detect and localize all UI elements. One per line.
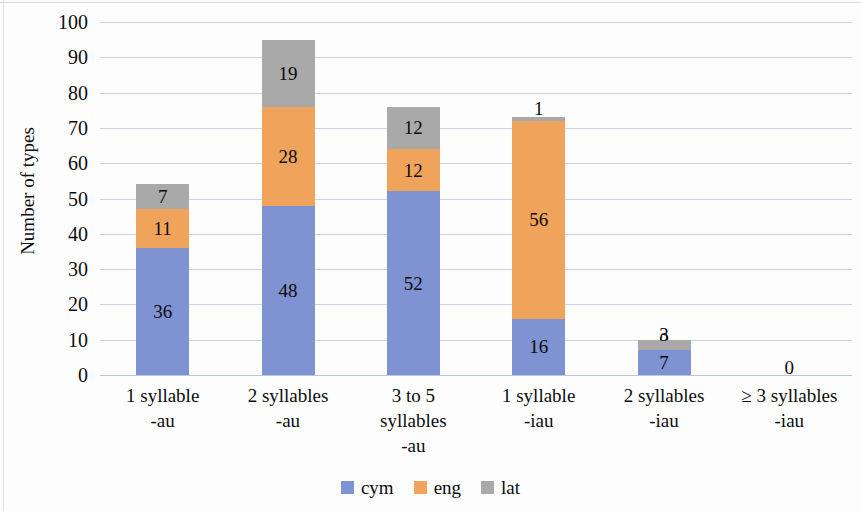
bar-value-label: 52: [404, 274, 423, 293]
bar-segment-cym[interactable]: 16: [512, 319, 565, 375]
gridline-90: [100, 57, 852, 58]
y-tick-label-80: 80: [14, 83, 88, 103]
bar-value-label: 36: [153, 302, 172, 321]
scan-border-top: [0, 2, 861, 3]
bar-segment-eng[interactable]: 12: [387, 149, 440, 191]
legend-label: cym: [361, 478, 394, 497]
bar-value-label: 16: [529, 337, 548, 356]
gridline-40: [100, 234, 852, 235]
bar-value-label: 19: [279, 64, 298, 83]
y-tick-label-60: 60: [14, 153, 88, 173]
bar-value-label: 11: [154, 219, 172, 238]
x-axis-label-line: -iau: [601, 408, 727, 433]
bar-segment-eng[interactable]: 11: [136, 209, 189, 248]
x-axis-label-line: syllables: [350, 408, 476, 433]
x-axis-label: 1 syllable-iau: [476, 383, 602, 433]
stacked-bar-chart: Number of types 1009080706050403020100 3…: [0, 0, 861, 511]
bar-group[interactable]: 482819: [262, 40, 315, 375]
bar-segment-lat[interactable]: 1: [512, 117, 565, 121]
y-tick-label-30: 30: [14, 259, 88, 279]
bar-value-label: 56: [529, 210, 548, 229]
legend-label: lat: [501, 478, 520, 497]
y-tick-label-0: 0: [14, 365, 88, 385]
x-axis-label-line: 2 syllables: [601, 383, 727, 408]
gridline-0: [100, 375, 852, 376]
bar-segment-cym[interactable]: 7: [638, 350, 691, 375]
gridline-100: [100, 22, 852, 23]
bar-value-label: 7: [158, 187, 168, 206]
bar-segment-lat[interactable]: 12: [387, 107, 440, 149]
x-axis-label: 2 syllables-au: [225, 383, 351, 433]
bar-group[interactable]: 0: [763, 374, 816, 375]
bar-segment-cym[interactable]: 48: [262, 206, 315, 375]
gridline-10: [100, 340, 852, 341]
x-axis-label: 1 syllable-au: [100, 383, 226, 433]
gridline-60: [100, 163, 852, 164]
bar-segment-eng[interactable]: 56: [512, 121, 565, 319]
bar-group[interactable]: 521212: [387, 107, 440, 375]
bar-value-label: 7: [659, 353, 669, 372]
y-axis-tick-labels: 1009080706050403020100: [0, 22, 88, 375]
bar-segment-lat[interactable]: 3: [638, 340, 691, 351]
legend-item-eng[interactable]: eng: [414, 478, 461, 497]
x-axis-label-line: 1 syllable: [100, 383, 226, 408]
x-axis-label-line: ≥ 3 syllables: [726, 383, 852, 408]
gridline-80: [100, 93, 852, 94]
x-axis-label-line: -au: [100, 408, 226, 433]
bar-value-label: 0: [763, 357, 816, 379]
x-axis-label-line: -au: [350, 433, 476, 458]
gridline-50: [100, 199, 852, 200]
legend-item-cym[interactable]: cym: [341, 478, 394, 497]
bar-value-label: 28: [279, 147, 298, 166]
y-tick-label-40: 40: [14, 224, 88, 244]
bar-segment-cym[interactable]: 52: [387, 191, 440, 375]
x-axis-label-line: -iau: [476, 408, 602, 433]
legend-label: eng: [434, 478, 461, 497]
y-tick-label-10: 10: [14, 330, 88, 350]
gridline-70: [100, 128, 852, 129]
legend-swatch-eng: [414, 481, 427, 494]
bar-segment-cym[interactable]: 36: [136, 248, 189, 375]
legend-item-lat[interactable]: lat: [481, 478, 520, 497]
x-axis-label: ≥ 3 syllables-iau: [726, 383, 852, 433]
bar-group[interactable]: 703: [638, 340, 691, 375]
legend-swatch-cym: [341, 481, 354, 494]
chart-legend: cymenglat: [0, 478, 861, 497]
bar-value-label: 48: [279, 281, 298, 300]
bar-value-label: 12: [404, 118, 423, 137]
bar-segment-lat[interactable]: 7: [136, 184, 189, 209]
x-axis-label-line: -au: [225, 408, 351, 433]
y-tick-label-90: 90: [14, 47, 88, 67]
x-axis-label: 3 to 5syllables-au: [350, 383, 476, 458]
legend-swatch-lat: [481, 481, 494, 494]
bar-value-label: 1: [512, 99, 565, 118]
x-axis-label-line: 2 syllables: [225, 383, 351, 408]
bar-segment-eng[interactable]: 28: [262, 107, 315, 206]
x-axis-label-line: -iau: [726, 408, 852, 433]
gridline-20: [100, 304, 852, 305]
y-tick-label-20: 20: [14, 294, 88, 314]
gridline-30: [100, 269, 852, 270]
bar-value-label: 12: [404, 161, 423, 180]
y-tick-label-100: 100: [14, 12, 88, 32]
y-tick-label-50: 50: [14, 189, 88, 209]
bar-segment-lat[interactable]: 19: [262, 40, 315, 107]
x-axis-label: 2 syllables-iau: [601, 383, 727, 433]
y-tick-label-70: 70: [14, 118, 88, 138]
bar-value-label: 3: [638, 325, 691, 344]
bar-group[interactable]: 36117: [136, 184, 189, 375]
plot-area: 36117482819521212165617030: [100, 22, 852, 375]
x-axis-label-line: 3 to 5: [350, 383, 476, 408]
x-axis-label-line: 1 syllable: [476, 383, 602, 408]
bar-group[interactable]: 16561: [512, 117, 565, 375]
x-axis-category-labels: 1 syllable-au2 syllables-au3 to 5syllabl…: [100, 383, 852, 463]
